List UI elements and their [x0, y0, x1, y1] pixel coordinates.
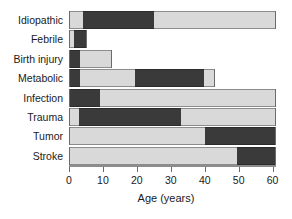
bar-febrile: [69, 30, 276, 48]
y-axis-category-labels: IdiopathicFebrileBirth injuryMetabolicIn…: [0, 10, 66, 165]
x-tick: [69, 167, 70, 172]
bar-idiopathic: [69, 11, 276, 29]
plot-right-mask: [276, 10, 277, 167]
bar-segment-dark: [237, 147, 276, 165]
bar-end-cap: [111, 50, 112, 68]
x-axis-line: [69, 165, 276, 167]
x-tick-label: 0: [66, 174, 72, 186]
bar-segment-light: [69, 108, 79, 126]
bar-start-cap: [69, 69, 70, 87]
bar-segment-light: [69, 147, 237, 165]
bar-start-cap: [69, 147, 70, 165]
y-axis-label-febrile: Febrile: [31, 30, 63, 48]
x-tick: [205, 167, 206, 172]
bar-segment-light: [181, 108, 276, 126]
bar-chart: IdiopathicFebrileBirth injuryMetabolicIn…: [0, 0, 292, 219]
bar-segment-light: [69, 11, 83, 29]
bar-metabolic: [69, 69, 276, 87]
bar-start-cap: [69, 89, 70, 107]
bar-birth-injury: [69, 50, 276, 68]
bar-segment-dark: [69, 50, 80, 68]
x-tick-label: 10: [97, 174, 109, 186]
bar-segment-dark: [79, 108, 181, 126]
plot-area: [69, 10, 276, 165]
bar-start-cap: [69, 108, 70, 126]
bar-stroke: [69, 147, 276, 165]
y-axis-label-tumor: Tumor: [33, 127, 63, 145]
x-axis-title-text: Age (years): [98, 192, 195, 204]
x-tick: [171, 167, 172, 172]
x-tick: [273, 167, 274, 172]
bar-infection: [69, 89, 276, 107]
bar-end-cap: [214, 69, 215, 87]
bar-segment-light: [100, 89, 276, 107]
bar-start-cap: [69, 30, 70, 48]
bar-trauma: [69, 108, 276, 126]
bar-end-cap: [86, 30, 87, 48]
x-tick-label: 20: [131, 174, 143, 186]
bar-start-cap: [69, 50, 70, 68]
x-tick: [239, 167, 240, 172]
x-tick-label: 60: [267, 174, 279, 186]
bar-segment-light: [80, 50, 112, 68]
x-tick-label: 50: [233, 174, 245, 186]
bar-segment-dark: [135, 69, 204, 87]
y-axis-label-stroke: Stroke: [33, 147, 63, 165]
x-axis-title: Age (years): [0, 192, 292, 204]
bar-segment-light: [80, 69, 135, 87]
y-axis-label-idiopathic: Idiopathic: [18, 11, 63, 29]
y-axis-label-trauma: Trauma: [27, 108, 63, 126]
bar-segment-light: [154, 11, 276, 29]
bar-tumor: [69, 127, 276, 145]
bar-segment-dark: [205, 127, 276, 145]
x-tick-label: 40: [199, 174, 211, 186]
bar-segment-dark: [83, 11, 154, 29]
bar-start-cap: [69, 11, 70, 29]
y-axis-label-metabolic: Metabolic: [18, 69, 63, 87]
bar-segment-dark: [69, 69, 80, 87]
x-tick: [137, 167, 138, 172]
y-axis-label-birth-injury: Birth injury: [13, 50, 63, 68]
bar-segment-dark: [69, 89, 100, 107]
y-axis-label-infection: Infection: [23, 89, 63, 107]
x-tick: [103, 167, 104, 172]
bar-segment-light: [69, 127, 205, 145]
x-tick-label: 30: [165, 174, 177, 186]
bar-start-cap: [69, 127, 70, 145]
